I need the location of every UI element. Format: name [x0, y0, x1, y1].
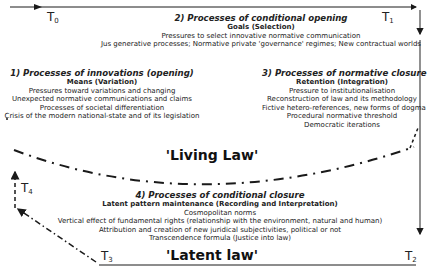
block-line: Procedural normative threshold: [262, 112, 422, 121]
block-title: 4) Processes of conditional closure: [40, 190, 400, 200]
block-line: Processes of societal differentiation: [2, 104, 202, 113]
block-subtitle: Goals (Selection): [96, 23, 426, 32]
block-conditional-opening: 2) Processes of conditional opening Goal…: [96, 13, 426, 49]
block-line: Pressures to select innovative normative…: [96, 32, 426, 41]
block-subtitle: Latent pattern maintenance (Recording an…: [40, 200, 400, 209]
block-line: Vertical effect of fundamental rights (r…: [40, 217, 400, 226]
block-line: Pressure to institutionalisation: [262, 87, 422, 96]
block-line: Jus generative processes; Normative priv…: [96, 40, 426, 49]
block-title: 2) Processes of conditional opening: [96, 13, 426, 23]
block-title: 3) Processes of normative closure: [262, 68, 422, 78]
block-line: Unexpected normative communications and …: [2, 95, 202, 104]
block-line: Attribution and creation of new juridica…: [40, 226, 400, 235]
block-line: Democratic iterations: [262, 121, 422, 130]
latent-law-label: 'Latent law': [0, 247, 424, 263]
block-normative-closure: 3) Processes of normative closure Retent…: [262, 68, 422, 130]
arrowhead-icon: [34, 4, 42, 10]
block-subtitle: Retention (Integration): [262, 78, 422, 87]
block-subtitle: Means (Variation): [2, 78, 202, 87]
time-marker-t4: T4: [21, 182, 33, 198]
time-marker-t0: T0: [47, 11, 59, 27]
block-line: Transcendence formula (Justice into law): [40, 234, 400, 243]
block-conditional-closure: 4) Processes of conditional closure Late…: [40, 190, 400, 243]
block-line: Pressures toward variations and changing: [2, 87, 202, 96]
block-line: Cosmopolitan norms: [40, 209, 400, 218]
block-title: 1) Processes of innovations (opening): [2, 68, 202, 78]
block-innovations: 1) Processes of innovations (opening) Me…: [2, 68, 202, 121]
block-line: Fictive hetero-references, new forms of …: [262, 104, 422, 113]
block-line: Crisis of the modern national-state and …: [2, 112, 202, 121]
block-line: Reconstruction of law and its methodolog…: [262, 95, 422, 104]
living-law-label: 'Living Law': [0, 147, 424, 163]
